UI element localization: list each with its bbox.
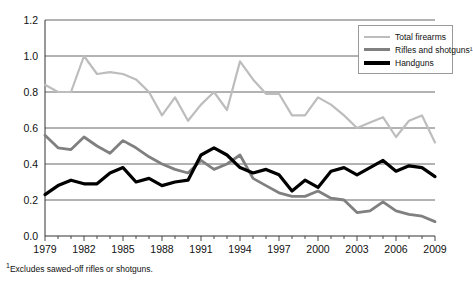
x-axis-ticks (45, 236, 435, 241)
series-lines (45, 56, 435, 222)
legend-item-total-firearms: Total firearms (364, 30, 447, 43)
legend-swatch-handguns (364, 61, 390, 65)
x-axis-tick-labels: 1979198219851988199119941997200020032006… (33, 243, 447, 255)
legend-swatch-total-firearms (364, 36, 390, 38)
y-tick-label: 0.2 (23, 194, 38, 206)
x-tick-label: 2003 (345, 243, 369, 255)
x-tick-label: 1988 (150, 243, 174, 255)
chart-legend: Total firearms Rifles and shotguns¹ Hand… (358, 25, 453, 74)
x-tick-label: 1985 (111, 243, 135, 255)
footnote-text: Excludes sawed-off rifles or shotguns. (10, 264, 153, 274)
legend-label-handguns: Handguns (395, 58, 434, 68)
legend-item-handguns: Handguns (364, 56, 447, 69)
x-tick-label: 2000 (306, 243, 330, 255)
y-tick-label: 0.8 (23, 86, 38, 98)
y-tick-label: 0.0 (23, 230, 38, 242)
chart-footnote: 1Excludes sawed-off rifles or shotguns. (6, 262, 153, 274)
legend-label-rifles-and-shotguns: Rifles and shotguns¹ (395, 45, 473, 55)
y-axis-tick-labels: 0.00.20.40.60.81.01.2 (23, 14, 38, 242)
legend-swatch-rifles-and-shotguns (364, 48, 390, 51)
y-tick-label: 1.2 (23, 14, 38, 26)
x-tick-label: 1994 (228, 243, 252, 255)
y-tick-label: 1.0 (23, 50, 38, 62)
x-tick-label: 2009 (423, 243, 447, 255)
legend-label-total-firearms: Total firearms (395, 32, 446, 42)
x-tick-label: 2006 (384, 243, 408, 255)
x-tick-label: 1982 (72, 243, 96, 255)
y-tick-label: 0.6 (23, 122, 38, 134)
x-tick-label: 1997 (267, 243, 291, 255)
x-tick-label: 1991 (189, 243, 213, 255)
y-tick-label: 0.4 (23, 158, 38, 170)
x-tick-label: 1979 (33, 243, 57, 255)
legend-item-rifles-and-shotguns: Rifles and shotguns¹ (364, 43, 447, 56)
